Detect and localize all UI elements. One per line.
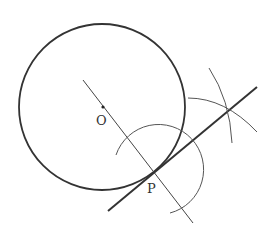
radius-line-op	[83, 80, 193, 223]
construction-figure	[0, 0, 268, 227]
label-o: O	[96, 114, 107, 127]
tangent-line	[108, 87, 257, 211]
center-point-o	[101, 105, 104, 108]
label-p: P	[147, 182, 156, 195]
diagram-canvas: O P	[0, 0, 268, 227]
